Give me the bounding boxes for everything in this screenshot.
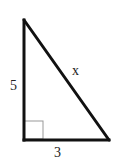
right-angle-marker bbox=[24, 121, 43, 139]
triangle-diagram: 5 3 x bbox=[0, 0, 140, 166]
vertical-leg-label: 5 bbox=[10, 79, 17, 93]
hypotenuse-label: x bbox=[72, 64, 79, 78]
triangle-figure bbox=[0, 0, 140, 166]
horizontal-leg-label: 3 bbox=[54, 146, 61, 160]
hypotenuse bbox=[24, 20, 109, 140]
